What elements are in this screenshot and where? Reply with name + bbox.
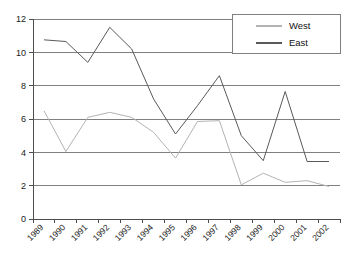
line-chart: 024681012 198919901991199219931994199519…: [0, 0, 353, 265]
y-axis-label-4: 4: [21, 148, 26, 158]
x-axis-label-1999: 1999: [244, 222, 265, 243]
y-axis-ticks-group: [29, 19, 33, 219]
x-axis-label-1994: 1994: [135, 222, 156, 243]
y-axis-labels-group: 024681012: [16, 14, 26, 224]
legend-label-east: East: [289, 37, 308, 48]
y-axis-label-12: 12: [16, 14, 26, 24]
x-axis-label-1990: 1990: [47, 222, 68, 243]
x-axis-label-1997: 1997: [200, 222, 221, 243]
x-axis-label-1998: 1998: [222, 222, 243, 243]
y-axis-label-0: 0: [21, 214, 26, 224]
x-axis-label-1993: 1993: [113, 222, 134, 243]
x-axis-label-2001: 2001: [288, 222, 309, 243]
x-axis-label-1992: 1992: [91, 222, 112, 243]
y-axis-label-2: 2: [21, 181, 26, 191]
x-axis-label-1995: 1995: [156, 222, 177, 243]
y-axis-label-6: 6: [21, 114, 26, 124]
x-axis-label-1991: 1991: [69, 222, 90, 243]
legend-label-west: West: [289, 20, 311, 31]
x-axis-label-1989: 1989: [25, 222, 46, 243]
chart-legend: WestEast: [232, 14, 340, 53]
y-axis-label-10: 10: [16, 48, 26, 58]
legend-box: [232, 14, 340, 53]
x-axis-label-1996: 1996: [178, 222, 199, 243]
x-axis-label-2002: 2002: [310, 222, 331, 243]
series-line-west: [44, 111, 329, 187]
x-axis-ticks-group: [33, 219, 340, 223]
chart-canvas: 024681012 198919901991199219931994199519…: [0, 0, 353, 265]
y-axis-label-8: 8: [21, 81, 26, 91]
x-axis-label-2000: 2000: [266, 222, 287, 243]
x-axis-labels-group: 1989199019911992199319941995199619971998…: [25, 222, 331, 243]
